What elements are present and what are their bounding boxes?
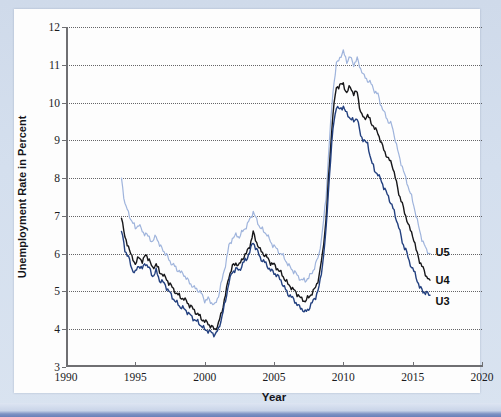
series-label-u5: U5: [435, 246, 449, 258]
series-lines: [66, 27, 482, 367]
plot-area: 3456789101112 19901995200020052010201520…: [66, 27, 482, 367]
y-tick-mark-3: [62, 367, 66, 368]
y-tick-label-7: 7: [54, 210, 60, 222]
y-tick-label-11: 11: [49, 59, 60, 71]
x-tick-label-2020: 2020: [471, 371, 494, 383]
series-label-u4: U4: [435, 274, 449, 286]
y-axis-title: Unemployment Rate in Percent: [16, 116, 28, 279]
series-label-u3: U3: [435, 295, 449, 307]
series-line-u3: [121, 106, 430, 337]
bottom-accent-band: [0, 403, 501, 417]
y-tick-label-12: 12: [49, 21, 61, 33]
y-tick-label-10: 10: [49, 97, 61, 109]
series-line-u4: [121, 83, 430, 330]
x-tick-label-2010: 2010: [332, 371, 355, 383]
y-tick-label-4: 4: [54, 323, 60, 335]
x-tick-label-1990: 1990: [55, 371, 78, 383]
y-tick-label-6: 6: [54, 248, 60, 260]
x-tick-label-2005: 2005: [263, 371, 286, 383]
y-tick-label-5: 5: [54, 285, 60, 297]
x-tick-label-2015: 2015: [401, 371, 424, 383]
x-tick-mark-2020: [482, 362, 483, 367]
y-tick-label-9: 9: [54, 134, 60, 146]
x-tick-label-1995: 1995: [124, 371, 147, 383]
figure-card: 3456789101112 19901995200020052010201520…: [14, 9, 480, 393]
figure-root: 3456789101112 19901995200020052010201520…: [0, 0, 501, 417]
x-tick-label-2000: 2000: [193, 371, 216, 383]
y-tick-label-8: 8: [54, 172, 60, 184]
x-axis-title: Year: [66, 391, 482, 403]
